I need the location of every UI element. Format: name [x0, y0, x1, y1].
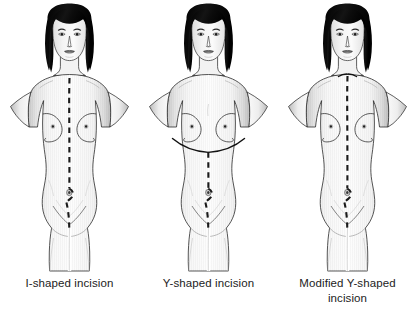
figure-modified-y-shaped-art [278, 2, 417, 274]
caption-line: Y-shaped incision [139, 276, 278, 291]
figure-y-shaped-caption: Y-shaped incision [139, 276, 278, 291]
figure-i-shaped-caption: I-shaped incision [0, 276, 139, 291]
figure-modified-y-shaped: Modified Y-shaped incision [278, 0, 417, 318]
caption-line: Modified Y-shaped [278, 276, 417, 291]
caption-line: I-shaped incision [0, 276, 139, 291]
figure-i-shaped: I-shaped incision [0, 0, 139, 318]
figure-modified-y-shaped-caption: Modified Y-shaped incision [278, 276, 417, 305]
figure-y-shaped: Y-shaped incision [139, 0, 278, 318]
caption-line: incision [278, 291, 417, 306]
incision-illustration-panel: I-shaped incision Y-shaped incision [0, 0, 417, 318]
figure-y-shaped-art [139, 2, 278, 274]
figure-i-shaped-art [0, 2, 139, 274]
